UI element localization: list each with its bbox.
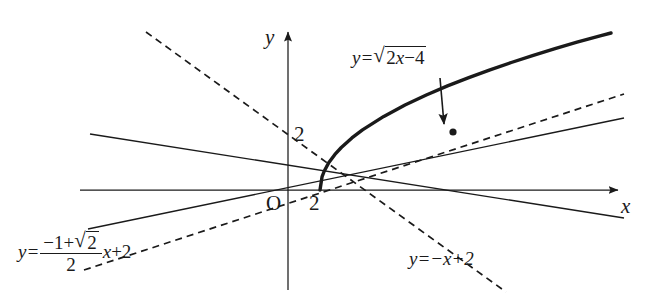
radicand-sign: − <box>404 47 415 68</box>
sqrt-radical-symbol: 2x−4 <box>373 46 426 67</box>
fraction-numerator: −1+2 <box>40 231 101 253</box>
curve-callout-arrow <box>440 78 444 124</box>
numerator-radicand: 2 <box>86 231 99 252</box>
dashed-eq-text: y=−x+2 <box>409 248 474 269</box>
tangent-eq-lhs: y= <box>18 241 39 262</box>
radicand-constant: 4 <box>415 47 425 68</box>
curve-equation-label: y=2x−4 <box>352 46 426 67</box>
dashed-line-equation-label: y=−x+2 <box>409 249 474 268</box>
x-axis-label: x <box>621 196 630 217</box>
curve-eq-lhs: y= <box>352 47 373 68</box>
tangent-equation-label: y= −1+2 2 x+2 <box>18 232 131 275</box>
radicand-variable: x <box>396 47 404 68</box>
tangent-eq-constant: +2 <box>111 241 131 262</box>
radicand-coefficient: 2 <box>386 47 396 68</box>
y-axis-label: y <box>265 27 274 48</box>
curve-eq-radicand: 2x−4 <box>385 46 426 67</box>
axes-group <box>80 32 618 290</box>
sqrt-radical-symbol-numerator: 2 <box>74 231 99 252</box>
tangent-eq-variable: x <box>103 241 111 262</box>
y-axis-tick-2: 2 <box>294 124 305 145</box>
tangent-eq-fraction: −1+2 2 <box>40 231 101 274</box>
numerator-text: −1+ <box>43 232 74 253</box>
math-figure: y x O 2 2 y=2x−4 y= −1+2 2 x+2 y=−x+2 <box>0 0 658 299</box>
origin-label: O <box>266 193 281 214</box>
tangency-point-dot <box>449 128 456 135</box>
fraction-denominator: 2 <box>40 253 101 274</box>
line-solid-secant <box>90 134 624 218</box>
x-axis-tick-2: 2 <box>309 193 320 214</box>
